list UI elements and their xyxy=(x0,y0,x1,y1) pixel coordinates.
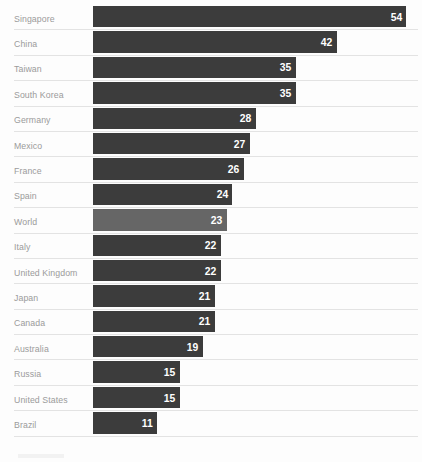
bar: 19 xyxy=(93,336,203,357)
table-row: South Korea35 xyxy=(0,81,422,106)
bar: 15 xyxy=(93,361,180,382)
bar-track: 35 xyxy=(93,82,418,103)
category-label: Canada xyxy=(14,317,45,328)
bar: 21 xyxy=(93,285,215,306)
category-label: Singapore xyxy=(14,12,55,23)
category-label: United Kingdom xyxy=(14,266,77,277)
table-row: Japan21 xyxy=(0,284,422,309)
bar-track: 23 xyxy=(93,209,418,230)
table-row: Spain24 xyxy=(0,183,422,208)
chart-footer xyxy=(0,444,422,462)
bar: 35 xyxy=(93,57,296,78)
bar-track: 21 xyxy=(93,285,418,306)
bar-track: 19 xyxy=(93,336,418,357)
bar-track: 24 xyxy=(93,184,418,205)
table-row: Italy22 xyxy=(0,234,422,259)
bar: 35 xyxy=(93,82,296,103)
bar-track: 11 xyxy=(93,412,418,433)
table-row: China42 xyxy=(0,30,422,55)
bar-track: 27 xyxy=(93,133,418,154)
category-label: Russia xyxy=(14,368,41,379)
table-row: United States15 xyxy=(0,386,422,411)
bar-value-label: 27 xyxy=(234,138,250,150)
horizontal-bar-chart: Singapore54China42Taiwan35South Korea35G… xyxy=(0,0,422,462)
bar-value-label: 35 xyxy=(280,61,296,73)
bar-value-label: 28 xyxy=(239,112,255,124)
category-label: France xyxy=(14,165,42,176)
category-label: Brazil xyxy=(14,418,36,429)
table-row: Germany28 xyxy=(0,107,422,132)
bar: 26 xyxy=(93,158,244,179)
bar-track: 22 xyxy=(93,235,418,256)
bar-track: 22 xyxy=(93,260,418,281)
table-row: Mexico27 xyxy=(0,132,422,157)
table-row: Taiwan35 xyxy=(0,56,422,81)
category-label: Germany xyxy=(14,114,51,125)
bar: 54 xyxy=(93,6,406,27)
bar-track: 21 xyxy=(93,311,418,332)
category-label: World xyxy=(14,215,37,226)
bar: 11 xyxy=(93,412,157,433)
bar-track: 54 xyxy=(93,6,418,27)
category-label: Spain xyxy=(14,190,37,201)
category-label: China xyxy=(14,38,37,49)
bar-value-label: 11 xyxy=(141,417,156,429)
table-row: France26 xyxy=(0,157,422,182)
table-row: United Kingdom22 xyxy=(0,259,422,284)
bar: 28 xyxy=(93,108,256,129)
bar-highlight: 23 xyxy=(93,209,227,230)
bar: 24 xyxy=(93,184,232,205)
bar-track: 42 xyxy=(93,31,418,52)
bar-value-label: 23 xyxy=(211,214,227,226)
chart-rows: Singapore54China42Taiwan35South Korea35G… xyxy=(0,5,422,437)
bar: 27 xyxy=(93,133,250,154)
bar-value-label: 54 xyxy=(390,11,406,23)
bar-track: 28 xyxy=(93,108,418,129)
bar-value-label: 22 xyxy=(205,239,221,251)
bar-value-label: 35 xyxy=(280,87,296,99)
category-label: Mexico xyxy=(14,139,42,150)
bar: 22 xyxy=(93,260,221,281)
footer-artifact xyxy=(18,454,64,458)
bar-value-label: 42 xyxy=(321,36,337,48)
bar-track: 15 xyxy=(93,387,418,408)
bar-track: 15 xyxy=(93,361,418,382)
bar-value-label: 26 xyxy=(228,163,244,175)
category-label: Taiwan xyxy=(14,63,42,74)
bar-track: 26 xyxy=(93,158,418,179)
category-label: Italy xyxy=(14,241,31,252)
bar-value-label: 21 xyxy=(199,315,215,327)
bar: 15 xyxy=(93,387,180,408)
row-separator xyxy=(14,436,418,437)
bar: 22 xyxy=(93,235,221,256)
bar: 42 xyxy=(93,31,337,52)
bar-value-label: 15 xyxy=(164,392,180,404)
category-label: South Korea xyxy=(14,88,64,99)
bar-value-label: 19 xyxy=(187,341,203,353)
table-row: Canada21 xyxy=(0,310,422,335)
table-row: World23 xyxy=(0,208,422,233)
category-label: Japan xyxy=(14,291,38,302)
table-row: Australia19 xyxy=(0,335,422,360)
bar-value-label: 21 xyxy=(199,290,215,302)
category-label: Australia xyxy=(14,342,49,353)
bar: 21 xyxy=(93,311,215,332)
bar-value-label: 15 xyxy=(164,366,180,378)
bar-track: 35 xyxy=(93,57,418,78)
bar-value-label: 24 xyxy=(216,188,232,200)
table-row: Brazil11 xyxy=(0,411,422,436)
table-row: Russia15 xyxy=(0,360,422,385)
bar-value-label: 22 xyxy=(205,265,221,277)
table-row: Singapore54 xyxy=(0,5,422,30)
category-label: United States xyxy=(14,393,68,404)
